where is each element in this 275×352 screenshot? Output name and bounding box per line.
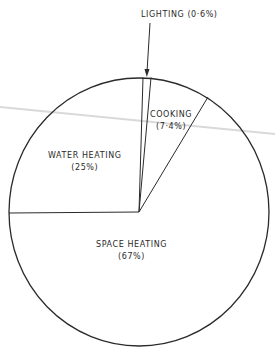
label-water-heating: WATER HEATING (25%)	[48, 150, 122, 174]
arrow-head-icon	[145, 69, 150, 77]
label-space-heating: SPACE HEATING (67%)	[96, 239, 167, 263]
label-lighting-text: LIGHTING (0·6%)	[141, 9, 218, 21]
label-water-name: WATER HEATING	[48, 150, 122, 162]
label-space-value: (67%)	[96, 251, 167, 263]
label-cooking: COOKING (7·4%)	[150, 109, 192, 133]
divider-water-space	[9, 212, 139, 213]
label-water-value: (25%)	[48, 162, 122, 174]
label-cooking-value: (7·4%)	[150, 121, 192, 133]
label-space-name: SPACE HEATING	[96, 239, 167, 251]
lighting-arrow	[147, 23, 150, 72]
label-lighting: LIGHTING (0·6%)	[141, 9, 218, 21]
label-cooking-name: COOKING	[150, 109, 192, 121]
pie-chart	[0, 0, 275, 352]
